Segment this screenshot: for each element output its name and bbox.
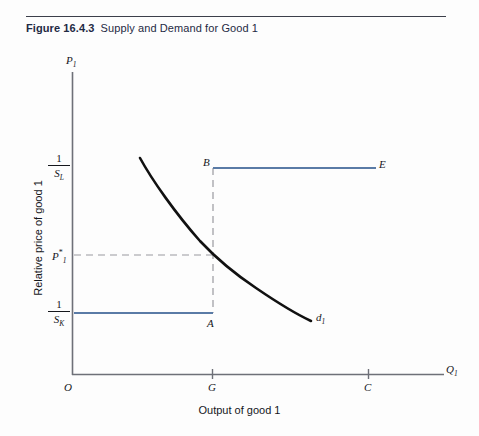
fraction-bar: [48, 311, 70, 312]
y-axis-title: Relative price of good 1: [32, 148, 44, 328]
y-tick-label-one-over-SK: 1 SK: [46, 298, 72, 330]
fraction-numerator: 1: [46, 152, 72, 164]
point-label-A: A: [207, 317, 214, 329]
equilibrium-price-label: P*1: [52, 248, 66, 265]
x-axis-label-Q1: Q1: [446, 363, 458, 378]
fraction-numerator: 1: [46, 298, 72, 310]
fraction-bar: [48, 165, 70, 166]
y-tick-label-one-over-SL: 1 SL: [46, 152, 72, 184]
fraction-denominator: SL: [46, 167, 72, 184]
fraction-denominator: SK: [46, 313, 72, 330]
point-label-B: B: [203, 156, 210, 168]
x-tick-label-G: G: [208, 381, 216, 393]
y-axis-label-P1: P1: [66, 54, 76, 69]
point-label-E: E: [379, 158, 386, 170]
x-axis-title: Output of good 1: [0, 404, 479, 416]
demand-curve: [140, 158, 311, 321]
origin-label: O: [64, 381, 72, 393]
figure-page: Figure 16.4.3Supply and Demand for Good …: [0, 0, 479, 436]
demand-curve-label: d1: [316, 311, 325, 326]
x-tick-label-C: C: [364, 381, 371, 393]
